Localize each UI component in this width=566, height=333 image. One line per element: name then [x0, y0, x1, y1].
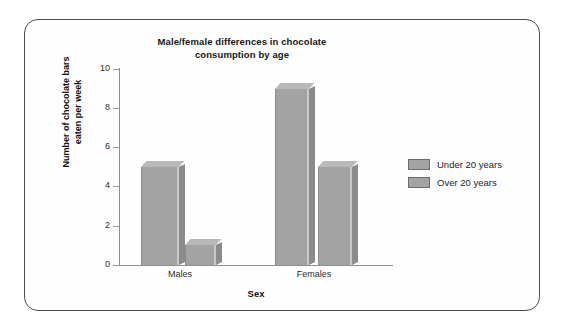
y-axis-tick-6: [113, 147, 119, 148]
y-axis-title: Number of chocolate bars eaten per week: [60, 32, 84, 192]
y-axis-line: [119, 68, 120, 266]
bar-front-face: [275, 89, 309, 265]
legend-label-over-20-years: Over 20 years: [437, 177, 497, 188]
chart-title-line-2: consumption by age: [120, 49, 364, 62]
y-axis-tick-10: [113, 69, 119, 70]
y-axis-label-10: 10: [88, 63, 110, 73]
bar-front-face: [318, 167, 352, 265]
y-axis-tick-4: [113, 186, 119, 187]
y-axis-label-8: 8: [88, 102, 110, 112]
bar-side-face: [309, 86, 315, 265]
bar-males-under-20-years: [141, 167, 179, 265]
bar-females-over-20-years: [318, 167, 352, 265]
bar-front-face: [141, 167, 179, 265]
x-axis-line: [119, 265, 393, 266]
bar-front-face: [185, 245, 216, 265]
x-axis-category-males: Males: [135, 269, 225, 279]
bar-females-under-20-years: [275, 89, 309, 265]
legend-swatch-icon: [408, 159, 430, 170]
bar-highlight: [307, 89, 309, 265]
legend-item-under-20-years[interactable]: Under 20 years: [408, 155, 502, 173]
y-axis-label-0: 0: [88, 259, 110, 269]
legend-label-under-20-years: Under 20 years: [437, 159, 502, 170]
y-axis-label-6: 6: [88, 141, 110, 151]
bar-chart: Male/female differences in chocolate con…: [0, 0, 566, 333]
chart-title: Male/female differences in chocolate con…: [120, 36, 364, 61]
legend-item-over-20-years[interactable]: Over 20 years: [408, 173, 502, 191]
bar-highlight: [350, 167, 352, 265]
y-axis-title-line-2: eaten per week: [72, 32, 84, 192]
legend-swatch-icon: [408, 177, 430, 188]
bar-side-face: [216, 242, 222, 265]
bar-highlight: [177, 167, 179, 265]
y-axis-label-4: 4: [88, 180, 110, 190]
y-axis-title-line-1: Number of chocolate bars: [60, 32, 72, 192]
bar-side-face: [352, 164, 358, 265]
chart-title-line-1: Male/female differences in chocolate: [120, 36, 364, 49]
bar-highlight: [214, 245, 216, 265]
y-axis-tick-2: [113, 226, 119, 227]
y-axis-tick-0: [113, 265, 119, 266]
y-axis-tick-8: [113, 108, 119, 109]
x-axis-title: Sex: [196, 288, 316, 299]
chart-legend: Under 20 years Over 20 years: [408, 155, 502, 191]
y-axis-label-2: 2: [88, 220, 110, 230]
x-axis-category-females: Females: [269, 269, 359, 279]
bar-males-over-20-years: [185, 245, 216, 265]
